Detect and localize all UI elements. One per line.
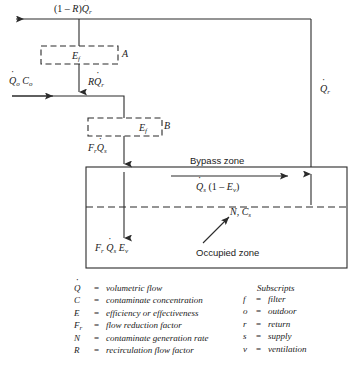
legend-subscripts-column: Subscripts f = filter o = outdoor r = re…	[243, 283, 307, 356]
legend-symbol: C	[74, 295, 94, 305]
legend-row: o = outdoor	[243, 306, 307, 318]
legend-row: Q = volumetric flow	[74, 283, 208, 295]
outdoor-air-label: Qo Co	[9, 76, 32, 88]
legend-symbol: v	[243, 344, 256, 354]
legend-equals: =	[94, 308, 106, 318]
legend-equals: =	[94, 320, 106, 330]
legend-symbol: R	[74, 345, 94, 355]
ventilation-flow-diagram: (1 – R)Qr Qo Co RQr Qr FrQs Qs (1 – Ev) …	[0, 0, 361, 375]
legend-equals: =	[94, 345, 106, 355]
legend-row: f = filter	[243, 294, 307, 306]
legend-definition: volumetric flow	[106, 283, 162, 293]
generation-pointer-arrow	[203, 217, 229, 243]
bypass-zone-label: Bypass zone	[190, 155, 244, 166]
legend-row: E = efficiency or effectiveness	[74, 308, 208, 320]
legend-definition: ventilation	[268, 344, 307, 354]
legend-symbol: Q	[74, 283, 94, 293]
legend-definition: contaminate generation rate	[106, 333, 208, 343]
legend-row: R = recirculation flow factor	[74, 345, 208, 357]
filter-a-tag: A	[122, 48, 128, 59]
legend-definition: contaminate concentration	[106, 295, 203, 305]
exhaust-flow-label: (1 – R)Qr	[54, 4, 92, 16]
legend-symbol: s	[243, 331, 256, 341]
legend-row: s = supply	[243, 331, 307, 343]
generation-rate-label: N, Cs	[230, 207, 251, 219]
legend-row: v = ventilation	[243, 344, 307, 356]
legend-equals: =	[94, 283, 106, 293]
legend-row: r = return	[243, 319, 307, 331]
legend-row: N = contaminate generation rate	[74, 333, 208, 345]
return-flow-label: Qr	[320, 84, 330, 96]
legend-definition: outdoor	[268, 306, 297, 316]
legend-symbol: E	[74, 308, 94, 318]
legend: Q = volumetric flow C = contaminate conc…	[0, 283, 361, 363]
legend-equals: =	[256, 344, 268, 354]
recirculated-flow-label: RQr	[88, 77, 104, 89]
legend-equals: =	[256, 306, 268, 316]
occupied-supply-label: Fr Qs Ev	[95, 243, 128, 255]
filter-b-symbol: Ef	[139, 122, 147, 135]
legend-equals: =	[256, 319, 268, 329]
legend-symbol: N	[74, 333, 94, 343]
bypass-flow-label: Qs (1 – Ev)	[196, 182, 239, 194]
legend-symbol: Fr	[74, 320, 94, 332]
legend-equals: =	[94, 333, 106, 343]
legend-definition: flow reduction factor	[106, 320, 182, 330]
legend-equals: =	[94, 295, 106, 305]
legend-definition: filter	[268, 294, 286, 304]
filter-b-tag: B	[164, 120, 170, 131]
legend-symbols-column: Q = volumetric flow C = contaminate conc…	[74, 283, 208, 357]
legend-definition: recirculation flow factor	[106, 345, 194, 355]
legend-subscripts-title: Subscripts	[257, 283, 307, 293]
legend-definition: efficiency or effectiveness	[106, 308, 198, 318]
legend-symbol: r	[243, 319, 256, 329]
legend-row: C = contaminate concentration	[74, 295, 208, 307]
filter-box-b	[88, 118, 162, 136]
legend-symbol: f	[243, 294, 256, 304]
occupied-zone-label: Occupied zone	[196, 247, 259, 258]
legend-definition: supply	[268, 331, 292, 341]
legend-equals: =	[256, 294, 268, 304]
legend-equals: =	[256, 331, 268, 341]
filter-a-symbol: Ef	[72, 50, 80, 63]
supply-flow-label: FrQs	[88, 143, 107, 155]
legend-row: Fr = flow reduction factor	[74, 320, 208, 332]
legend-definition: return	[268, 319, 290, 329]
mixed-air-duct-line	[12, 96, 124, 118]
legend-symbol: o	[243, 306, 256, 316]
